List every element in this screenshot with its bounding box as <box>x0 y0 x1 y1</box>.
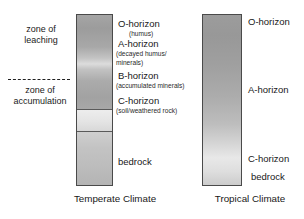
zone-label-leaching: zone of leaching <box>6 24 76 46</box>
tropical-label-bedrock: bedrock <box>251 172 285 182</box>
temperate-segment-c <box>77 110 112 131</box>
zone-label-accumulation: zone of accumulation <box>2 85 78 107</box>
soil-profile-diagram: zone of leaching zone of accumulation O-… <box>0 0 304 219</box>
tropical-label-a-horizon: A-horizon <box>248 85 289 95</box>
temperate-label-bedrock: bedrock <box>118 157 152 167</box>
temperate-segment-o-a-b <box>77 15 112 109</box>
tropical-soil-column <box>202 14 242 186</box>
temperate-sublabel-c-horizon: (soil/weathered rock) <box>116 107 177 114</box>
temperate-sublabel2-a-horizon: minerals) <box>116 59 143 66</box>
temperate-climate-caption: Temperate Climate <box>52 194 178 205</box>
tropical-label-c-horizon: C-horizon <box>248 154 289 164</box>
tropical-label-o-horizon: O-horizon <box>248 17 290 27</box>
zone-leaching-line1: zone of <box>6 24 76 35</box>
temperate-sublabel-o-horizon: (humus) <box>129 30 153 37</box>
tropical-climate-caption: Tropical Climate <box>196 194 304 205</box>
temperate-sublabel-b-horizon: (accumulated minerals) <box>116 82 185 89</box>
temperate-label-b-horizon: B-horizon <box>118 71 159 81</box>
zone-accumulation-line2: accumulation <box>2 96 78 107</box>
temperate-sublabel-a-horizon: (decayed humus/ <box>116 50 167 57</box>
temperate-label-c-horizon: C-horizon <box>118 96 159 106</box>
temperate-label-a-horizon: A-horizon <box>118 39 159 49</box>
zone-leaching-line2: leaching <box>6 35 76 46</box>
zone-accumulation-line1: zone of <box>2 85 78 96</box>
zone-divider-dashed-line <box>8 79 70 80</box>
tropical-segment-gradient <box>203 15 241 185</box>
temperate-segment-bedrock <box>77 132 112 185</box>
temperate-label-o-horizon: O-horizon <box>118 19 160 29</box>
temperate-soil-column <box>76 14 113 186</box>
